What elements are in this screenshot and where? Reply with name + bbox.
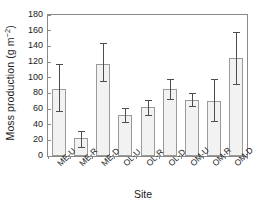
x-axis-tick-mark — [48, 156, 49, 159]
error-bar-cap-lower — [56, 111, 63, 112]
error-bar-cap-lower — [100, 81, 107, 82]
y-axis-tick-mark — [48, 62, 51, 63]
error-bar-line — [59, 64, 60, 111]
x-axis-label: Site — [0, 188, 258, 200]
y-axis-tick-label: 140 — [28, 40, 43, 50]
error-bar-cap-lower — [145, 115, 152, 116]
y-axis-tick-mark — [48, 30, 51, 31]
error-bar-line — [214, 79, 215, 121]
error-bar-line — [148, 100, 149, 116]
error-bar-cap-upper — [211, 79, 218, 80]
error-bar-line — [125, 108, 126, 122]
error-bar-cap-upper — [189, 93, 196, 94]
y-axis-tick-mark — [48, 93, 51, 94]
error-bar-line — [236, 32, 237, 84]
y-axis-tick-label: 40 — [33, 119, 43, 129]
error-bar-cap-upper — [100, 43, 107, 44]
error-bar-cap-lower — [233, 84, 240, 85]
y-axis-tick-mark — [48, 46, 51, 47]
chart-figure: Moss production (g m−2) 0204060801001201… — [0, 0, 258, 207]
y-axis-tick-label: 60 — [33, 103, 43, 113]
error-bar-cap-upper — [78, 131, 85, 132]
error-bar-cap-upper — [167, 79, 174, 80]
error-bar-line — [170, 79, 171, 99]
y-axis-tick-mark — [48, 109, 51, 110]
y-axis-label-main: Moss production (g m — [5, 37, 17, 140]
error-bar-line — [103, 43, 104, 81]
y-axis-tick-label: 100 — [28, 72, 43, 82]
error-bar-cap-upper — [56, 64, 63, 65]
y-axis-label: Moss production (g m−2) — [3, 25, 17, 140]
y-axis-tick-label: 20 — [33, 134, 43, 144]
y-axis-tick-label: 0 — [38, 150, 43, 160]
y-axis-tick-mark — [48, 124, 51, 125]
y-axis-tick-mark — [48, 77, 51, 78]
error-bar-line — [81, 131, 82, 147]
y-axis-label-exponent: −2 — [3, 28, 12, 37]
error-bar-cap-lower — [122, 122, 129, 123]
y-axis-tick-label: 180 — [28, 9, 43, 19]
error-bar-line — [192, 93, 193, 106]
y-axis-tick-label: 160 — [28, 25, 43, 35]
x-axis-label-text: Site — [134, 188, 152, 200]
y-axis-label-wrapper: Moss production (g m−2) — [0, 0, 20, 165]
error-bar-cap-lower — [211, 121, 218, 122]
error-bar-cap-upper — [122, 108, 129, 109]
error-bar-cap-upper — [233, 32, 240, 33]
y-axis-tick-label: 80 — [33, 87, 43, 97]
y-axis-tick-label: 120 — [28, 56, 43, 66]
plot-area: 020406080100120140160180 — [47, 14, 248, 157]
y-axis-tick-mark — [48, 140, 51, 141]
y-axis-label-close: ) — [5, 25, 17, 29]
error-bar-cap-lower — [167, 99, 174, 100]
error-bar-cap-lower — [78, 147, 85, 148]
bar — [185, 100, 199, 156]
error-bar-cap-upper — [145, 100, 152, 101]
error-bar-cap-lower — [189, 106, 196, 107]
y-axis-tick-mark — [48, 15, 51, 16]
